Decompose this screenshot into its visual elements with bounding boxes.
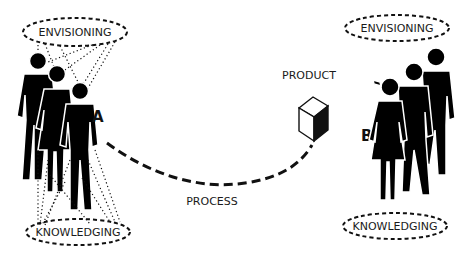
group-a-people: A — [17, 53, 104, 211]
group-b-knowledging-label: KNOWLEDGING — [352, 220, 437, 233]
group-b-people: B — [361, 48, 455, 200]
group-a-envisioning-label: ENVISIONING — [38, 26, 111, 39]
cube-icon — [299, 97, 328, 141]
group-a-envisioning-bubble: ENVISIONING — [23, 18, 127, 46]
group-a-knowledging-label: KNOWLEDGING — [35, 226, 120, 239]
group-b-envisioning-label: ENVISIONING — [360, 22, 433, 35]
group-a-label: A — [92, 108, 104, 126]
diagram-canvas: ENVISIONING A — [0, 0, 473, 262]
process-arrow: PROCESS — [107, 143, 312, 208]
process-label: PROCESS — [186, 195, 238, 208]
product: PRODUCT — [282, 69, 336, 141]
group-b-envisioning-bubble: ENVISIONING — [345, 15, 449, 41]
group-b-knowledging-bubble: KNOWLEDGING — [343, 213, 447, 239]
product-label: PRODUCT — [282, 69, 336, 82]
group-a-knowledging-bubble: KNOWLEDGING — [26, 219, 130, 245]
